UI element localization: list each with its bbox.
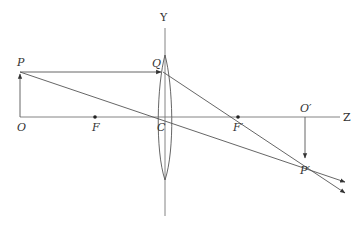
ray-refracted-through-focus <box>163 72 345 193</box>
label-image-base: O′ <box>300 102 312 115</box>
label-y-axis: Y <box>159 11 168 24</box>
label-focus-back: F′ <box>232 121 244 134</box>
lens-ray-diagram: Y Z P O Q F C F′ O′ P′ <box>0 0 364 226</box>
ray-through-center <box>20 72 345 182</box>
focus-front-dot <box>93 115 97 119</box>
label-z-axis: Z <box>343 111 351 124</box>
label-image-top: P′ <box>299 164 310 177</box>
focus-back-dot <box>236 115 240 119</box>
label-lens-point: Q <box>152 57 161 70</box>
label-lens-center: C <box>157 121 166 134</box>
label-object-base: O <box>17 121 26 134</box>
label-object-top: P <box>16 56 25 69</box>
label-focus-front: F <box>91 121 100 134</box>
